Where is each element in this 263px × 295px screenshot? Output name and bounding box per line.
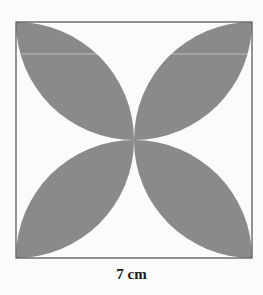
petal-bottom-left (16, 140, 134, 258)
petal-top-right (134, 22, 252, 140)
petal-square-diagram (0, 0, 263, 295)
petal-bottom-right (134, 140, 252, 258)
side-length-label: 7 cm (0, 266, 263, 283)
petals-group (16, 22, 252, 258)
petal-top-left (16, 22, 134, 140)
